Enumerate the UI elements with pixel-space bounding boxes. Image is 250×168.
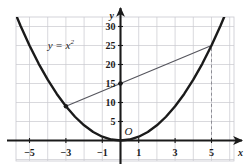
graph-figure: −5−3−1135 51015202530 x y O y = x2 bbox=[0, 0, 250, 168]
x-axis-label: x bbox=[238, 148, 243, 158]
point-y-intercept bbox=[118, 81, 122, 85]
x-tick-label: −5 bbox=[24, 148, 35, 158]
parabola-equation-text: y = x bbox=[48, 39, 71, 51]
y-tick-label: 30 bbox=[106, 22, 116, 32]
parabola-equation-label: y = x2 bbox=[48, 40, 74, 51]
x-tick-label: −3 bbox=[61, 148, 72, 158]
point-left-intersection bbox=[64, 104, 68, 108]
origin-label: O bbox=[125, 126, 133, 137]
parabola-equation-exponent: 2 bbox=[70, 38, 74, 46]
y-tick-label: 15 bbox=[106, 79, 116, 89]
y-tick-label: 20 bbox=[106, 60, 116, 70]
plot-canvas bbox=[0, 0, 250, 168]
y-tick-label: 10 bbox=[106, 98, 116, 108]
x-tick-label: −1 bbox=[97, 148, 108, 158]
y-axis-label: y bbox=[110, 11, 114, 21]
y-tick-label: 25 bbox=[106, 41, 116, 51]
x-tick-label: 3 bbox=[173, 148, 178, 158]
x-tick-label: 5 bbox=[209, 148, 214, 158]
x-tick-label: 1 bbox=[136, 148, 141, 158]
y-tick-label: 5 bbox=[111, 117, 116, 127]
